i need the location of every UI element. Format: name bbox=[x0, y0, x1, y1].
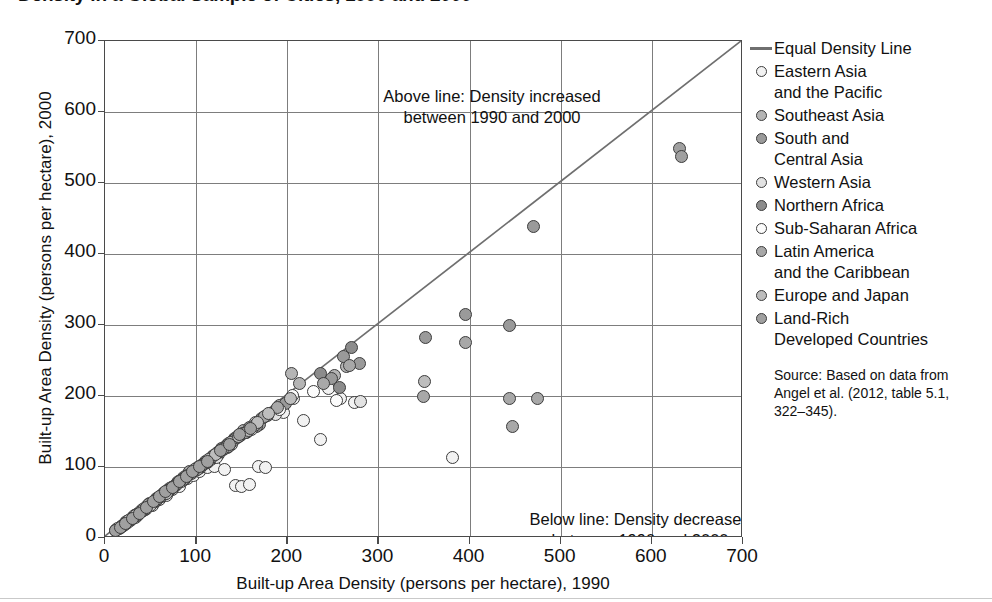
data-point bbox=[354, 395, 367, 408]
legend-dot-icon bbox=[756, 133, 767, 144]
data-point bbox=[675, 150, 688, 163]
data-point bbox=[343, 359, 356, 372]
legend-dot-swatch bbox=[748, 241, 774, 262]
data-point bbox=[284, 392, 297, 405]
data-point bbox=[418, 375, 431, 388]
y-tickmark bbox=[98, 40, 105, 41]
legend-dot-icon bbox=[756, 290, 767, 301]
legend-dot-icon bbox=[756, 246, 767, 257]
data-point bbox=[243, 478, 256, 491]
legend-item[interactable]: Equal Density Line bbox=[748, 38, 988, 59]
legend-dot-icon bbox=[756, 313, 767, 324]
data-point bbox=[259, 461, 272, 474]
x-tick-label: 700 bbox=[707, 545, 777, 567]
legend-dot-swatch bbox=[748, 172, 774, 193]
legend-dot-swatch bbox=[748, 285, 774, 306]
legend-item[interactable]: Europe and Japan bbox=[748, 285, 988, 306]
legend-source-note: Source: Based on data from Angel et al. … bbox=[774, 366, 964, 420]
bottom-divider bbox=[0, 598, 992, 599]
legend-item[interactable]: Latin Americaand the Caribbean bbox=[748, 241, 988, 283]
y-tickmark bbox=[98, 395, 105, 396]
legend-item[interactable]: Northern Africa bbox=[748, 195, 988, 216]
legend-dot-swatch bbox=[748, 128, 774, 149]
x-tick-label: 600 bbox=[616, 545, 686, 567]
legend-item-label: Land-RichDeveloped Countries bbox=[774, 308, 928, 350]
legend-item[interactable]: South andCentral Asia bbox=[748, 128, 988, 170]
legend-item[interactable]: Southeast Asia bbox=[748, 105, 988, 126]
data-point bbox=[506, 420, 519, 433]
legend-dot-icon bbox=[756, 200, 767, 211]
data-point bbox=[317, 377, 330, 390]
y-tickmark bbox=[98, 182, 105, 183]
data-point bbox=[201, 455, 214, 468]
x-tick-label: 400 bbox=[434, 545, 504, 567]
legend-item-label: Europe and Japan bbox=[774, 285, 909, 306]
annotation-below-line1: Below line: Density decreased bbox=[529, 510, 741, 528]
x-axis-tick-labels: 0100200300400500600700 bbox=[104, 545, 742, 571]
x-tickmark bbox=[742, 537, 743, 544]
legend-dot-swatch bbox=[748, 61, 774, 82]
page-title: Density in a Global Sample of Cities, 19… bbox=[18, 0, 738, 6]
x-tickmark bbox=[286, 537, 287, 544]
legend-item-label: Sub-Saharan Africa bbox=[774, 218, 917, 239]
legend-item-label: South andCentral Asia bbox=[774, 128, 863, 170]
legend-item-label: Northern Africa bbox=[774, 195, 884, 216]
data-point bbox=[531, 392, 544, 405]
x-tickmark bbox=[560, 537, 561, 544]
annotation-above-line2: between 1990 and 2000 bbox=[403, 108, 580, 126]
annotation-above-line1: Above line: Density increased bbox=[383, 87, 600, 105]
x-axis-title: Built-up Area Density (persons per hecta… bbox=[104, 574, 742, 594]
legend-item-label: Western Asia bbox=[774, 172, 871, 193]
legend-dot-swatch bbox=[748, 195, 774, 216]
data-point bbox=[333, 381, 346, 394]
legend-item[interactable]: Sub-Saharan Africa bbox=[748, 218, 988, 239]
legend-dot-swatch bbox=[748, 218, 774, 239]
legend-item-label: Eastern Asiaand the Pacific bbox=[774, 61, 882, 103]
data-point bbox=[417, 390, 430, 403]
legend-item[interactable]: Land-RichDeveloped Countries bbox=[748, 308, 988, 350]
x-tickmark bbox=[104, 537, 105, 544]
legend-item-label: Latin Americaand the Caribbean bbox=[774, 241, 910, 283]
legend-dot-icon bbox=[756, 223, 767, 234]
y-tickmark bbox=[98, 111, 105, 112]
legend-item-label: Southeast Asia bbox=[774, 105, 884, 126]
legend-dot-icon bbox=[756, 177, 767, 188]
legend-item[interactable]: Western Asia bbox=[748, 172, 988, 193]
data-point bbox=[293, 377, 306, 390]
x-tickmark bbox=[651, 537, 652, 544]
x-tickmark bbox=[469, 537, 470, 544]
legend-dot-icon bbox=[756, 66, 767, 77]
y-tickmark bbox=[98, 253, 105, 254]
data-point bbox=[330, 394, 343, 407]
legend-dot-swatch bbox=[748, 105, 774, 126]
legend-entries: Equal Density LineEastern Asiaand the Pa… bbox=[748, 38, 988, 350]
data-point bbox=[527, 220, 540, 233]
annotation-below-line2: between 1990 and 2000 bbox=[551, 531, 728, 536]
x-tick-label: 100 bbox=[160, 545, 230, 567]
data-point bbox=[314, 433, 327, 446]
plot-area: Above line: Density increased between 19… bbox=[104, 40, 742, 537]
x-tickmark bbox=[195, 537, 196, 544]
legend-dot-swatch bbox=[748, 308, 774, 329]
equal-density-line-icon bbox=[750, 47, 772, 49]
x-tick-label: 200 bbox=[251, 545, 321, 567]
legend: Equal Density LineEastern Asiaand the Pa… bbox=[748, 38, 988, 420]
x-tick-label: 500 bbox=[525, 545, 595, 567]
x-tick-label: 300 bbox=[342, 545, 412, 567]
y-tickmark bbox=[98, 466, 105, 467]
y-tickmark bbox=[98, 324, 105, 325]
data-point bbox=[262, 407, 275, 420]
annotation-below-line: Below line: Density decreased between 19… bbox=[475, 509, 741, 536]
x-tickmark bbox=[377, 537, 378, 544]
legend-item[interactable]: Eastern Asiaand the Pacific bbox=[748, 61, 988, 103]
legend-line-swatch bbox=[748, 38, 774, 59]
legend-dot-icon bbox=[756, 110, 767, 121]
data-point bbox=[446, 451, 459, 464]
plot-inner: Above line: Density increased between 19… bbox=[105, 41, 741, 536]
y-axis-title: Built-up Area Density (persons per hecta… bbox=[36, 18, 56, 538]
legend-item-label: Equal Density Line bbox=[774, 38, 912, 59]
x-tick-label: 0 bbox=[69, 545, 139, 567]
annotation-above-line: Above line: Density increased between 19… bbox=[327, 86, 657, 128]
